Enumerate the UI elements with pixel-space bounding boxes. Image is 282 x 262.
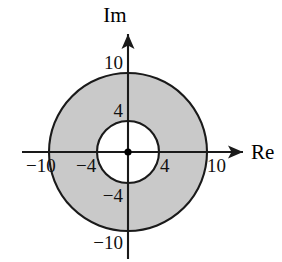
tick-label-re-minus-10: −10	[26, 155, 56, 176]
tick-label-im-minus-4: −4	[103, 185, 124, 206]
tick-label-im-10: 10	[104, 52, 123, 73]
tick-label-im-4: 4	[114, 100, 124, 121]
tick-label-re-minus-4: −4	[76, 155, 97, 176]
tick-label-re-4: 4	[160, 155, 170, 176]
complex-plane-annulus-figure: Im Re 10 4 −4 −10 −10 −4 4 10	[0, 0, 282, 262]
origin-dot	[124, 148, 131, 155]
imaginary-axis-label: Im	[103, 3, 126, 27]
figure-canvas: Im Re 10 4 −4 −10 −10 −4 4 10	[0, 0, 282, 262]
tick-label-im-minus-10: −10	[93, 232, 123, 253]
real-axis-label: Re	[251, 140, 274, 164]
tick-label-re-10: 10	[207, 155, 226, 176]
